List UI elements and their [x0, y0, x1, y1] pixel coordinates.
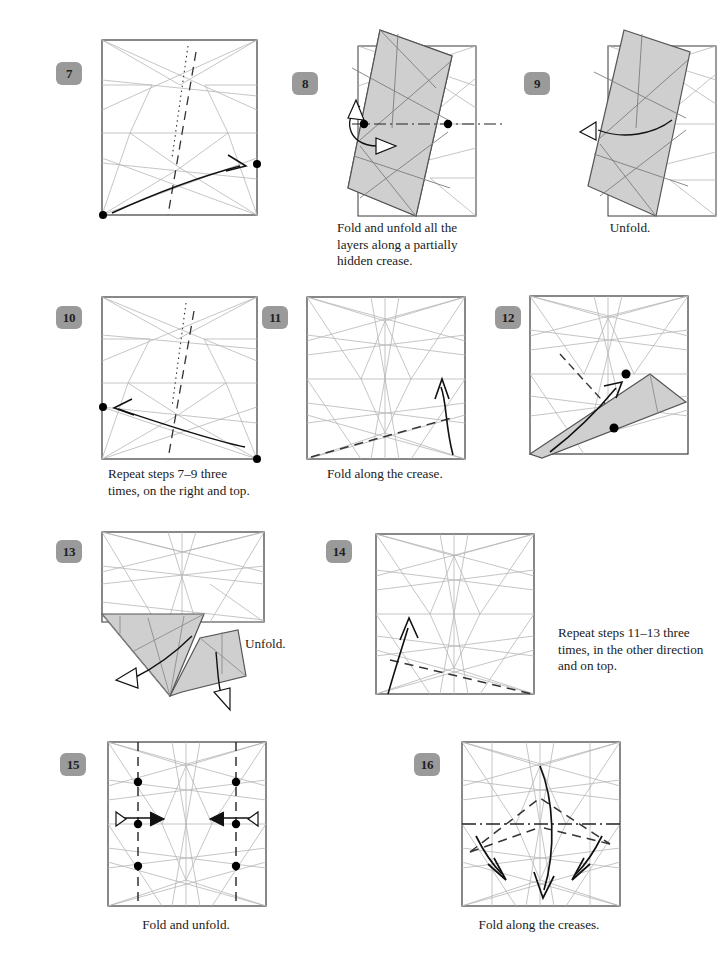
crease-marker-dot: [99, 403, 107, 411]
step-number-badge-16: 16: [414, 753, 440, 776]
crease-marker-dot: [444, 120, 452, 128]
step-number-badge-12: 12: [495, 306, 521, 329]
crease-marker-dot: [253, 160, 261, 168]
step-8-caption: Fold and unfold all the layers along a p…: [337, 220, 467, 270]
step-9-caption: Unfold.: [565, 220, 695, 237]
crease-marker-dot: [360, 120, 368, 128]
step-number-badge-11: 11: [262, 306, 288, 329]
crease-marker-dot: [232, 778, 240, 786]
step-number-badge-13: 13: [56, 540, 82, 563]
step-10-caption: Repeat steps 7–9 three times, on the rig…: [108, 466, 258, 499]
step-number-badge-7: 7: [56, 62, 82, 85]
step-9-diagram: [562, 28, 724, 228]
step-13-caption: Unfold.: [245, 636, 325, 653]
step-7-diagram: [100, 38, 280, 233]
step-13-diagram: [96, 528, 326, 718]
crease-marker-dot: [134, 862, 142, 870]
step-15-caption: Fold and unfold.: [110, 917, 262, 934]
crease-marker-dot: [134, 778, 142, 786]
crease-marker-dot: [134, 820, 142, 828]
step-15-diagram: [106, 740, 296, 920]
step-11-diagram: [305, 295, 485, 475]
step-number-badge-8: 8: [292, 72, 318, 95]
step-11-caption: Fold along the crease.: [327, 466, 497, 483]
step-16-caption: Fold along the creases.: [460, 917, 618, 934]
step-number-badge-9: 9: [524, 72, 550, 95]
crease-marker-dot: [253, 455, 261, 463]
step-12-diagram: [528, 292, 724, 472]
step-number-badge-14: 14: [326, 540, 352, 563]
crease-marker-dot: [610, 424, 619, 433]
step-16-diagram: [460, 740, 650, 920]
step-10-diagram: [100, 295, 280, 485]
crease-marker-dot: [99, 211, 107, 219]
step-8-diagram: [330, 28, 520, 228]
crease-marker-dot: [622, 370, 631, 379]
crease-marker-dot: [232, 862, 240, 870]
crease-marker-dot: [232, 820, 240, 828]
step-14-diagram: [374, 532, 554, 712]
step-14-caption: Repeat steps 11–13 three times, in the o…: [558, 625, 708, 675]
step-number-badge-10: 10: [56, 306, 82, 329]
step-number-badge-15: 15: [60, 753, 86, 776]
